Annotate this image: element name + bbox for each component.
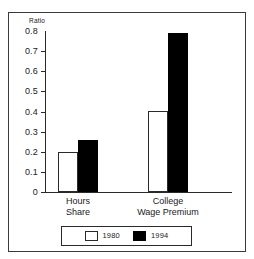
category-label: HoursShare (28, 196, 128, 218)
category-label-line: Wage Premium (118, 207, 218, 218)
y-axis-tick-label: 0.8 (14, 27, 38, 36)
chart-figure: Ratio 0.80.70.60.50.40.30.20.10 HoursSha… (0, 0, 254, 259)
y-axis-tick-label: 0.7 (14, 47, 38, 56)
y-axis-tick-label: 0.1 (14, 168, 38, 177)
y-axis-tick-label: 0.3 (14, 128, 38, 137)
legend-swatch-1994 (133, 231, 146, 241)
y-axis-tick (41, 192, 46, 193)
chart-legend: 19801994 (61, 226, 192, 246)
plot-area (45, 30, 230, 192)
legend-entry-1994: 1994 (133, 231, 169, 241)
bar-1994-1 (168, 33, 188, 192)
legend-label: 1980 (103, 232, 121, 240)
bar-1980-0 (58, 152, 78, 192)
category-label: CollegeWage Premium (118, 196, 218, 218)
bar-1994-0 (78, 140, 98, 192)
bar-1980-1 (148, 111, 168, 192)
legend-label: 1994 (151, 232, 169, 240)
x-axis-line (41, 192, 232, 193)
y-axis-tick-label: 0.5 (14, 87, 38, 96)
category-label-line: Hours (28, 196, 128, 207)
y-axis-tick-label: 0.6 (14, 67, 38, 76)
y-axis-title: Ratio (29, 17, 45, 24)
y-axis-tick-label: 0.4 (14, 108, 38, 117)
legend-swatch-1980 (85, 231, 98, 241)
category-label-line: College (118, 196, 218, 207)
y-axis-tick-label: 0.2 (14, 148, 38, 157)
legend-entry-1980: 1980 (85, 231, 121, 241)
category-label-line: Share (28, 207, 128, 218)
